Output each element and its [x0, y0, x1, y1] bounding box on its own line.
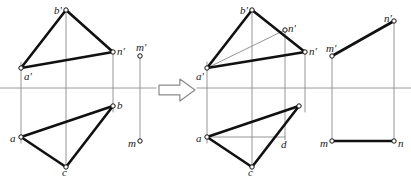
transform-arrow-group — [159, 79, 195, 101]
point-label-b_f2: b' — [240, 5, 248, 16]
edge-a-c-horizontal-2 — [207, 137, 252, 167]
edge-a-n-frontal-2 — [207, 52, 305, 68]
point-label-nr_f2: n' — [384, 13, 392, 24]
point-marker-n2_f2 — [303, 50, 307, 54]
point-label-n2_f2: n' — [309, 46, 317, 57]
point-marker-b_h2 — [297, 104, 301, 108]
point-marker-n_f — [111, 50, 115, 54]
line-mn-frontal — [332, 21, 394, 56]
point-label-d_h2: d — [281, 139, 287, 150]
point-label-n_f: n' — [117, 46, 125, 57]
point-marker-n_h2 — [392, 139, 396, 143]
edge-a-b-frontal — [21, 10, 66, 68]
edge-a-c-horizontal — [21, 137, 66, 167]
point-label-m_f: m' — [136, 42, 146, 53]
construction-lines-group — [21, 12, 394, 167]
geometry-canvas — [0, 0, 411, 178]
point-marker-a_h2 — [205, 135, 209, 139]
point-label-m_h: m — [128, 138, 136, 149]
point-marker-nr_f2 — [392, 19, 396, 23]
edge-a-n-frontal — [21, 52, 113, 68]
point-marker-m_f — [138, 54, 142, 58]
point-marker-a_f — [19, 66, 23, 70]
edge-b-n-frontal — [66, 10, 113, 52]
point-label-n_h2: n — [398, 138, 404, 149]
point-label-a_h: a — [10, 133, 16, 144]
point-label-m_h2: m — [320, 138, 328, 149]
diagram-page: a'b'n'm'abcma'b'n'n'm'n'acdmn — [0, 0, 411, 178]
edge-a-b-frontal-2 — [207, 10, 252, 68]
point-label-a_h2: a — [196, 133, 202, 144]
point-marker-m_f2 — [330, 54, 334, 58]
point-marker-m_h2 — [330, 139, 334, 143]
point-label-a_f2: a' — [196, 71, 204, 82]
point-marker-n1_f2 — [283, 28, 287, 32]
point-marker-b_f2 — [250, 8, 254, 12]
point-marker-a_h — [19, 135, 23, 139]
point-label-b_h: b — [117, 100, 123, 111]
transform-arrow — [159, 79, 195, 101]
point-label-b_f: b' — [54, 5, 62, 16]
point-marker-m_h — [138, 139, 142, 143]
point-label-m_f2: m' — [326, 43, 336, 54]
point-label-c_h: c — [62, 167, 67, 178]
point-marker-b_f — [64, 8, 68, 12]
edge-a-b-horizontal — [21, 106, 113, 137]
point-label-n1_f2: n' — [288, 23, 296, 34]
edge-b-n-frontal-2 — [252, 10, 305, 52]
point-marker-b_h — [111, 104, 115, 108]
point-label-a_f: a' — [24, 71, 32, 82]
point-label-c_h2: c — [248, 167, 253, 178]
point-marker-a_f2 — [205, 66, 209, 70]
